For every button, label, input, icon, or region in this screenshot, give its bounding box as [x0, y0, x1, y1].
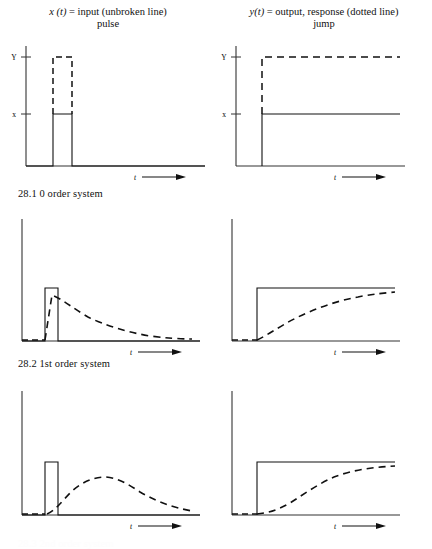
x-axis-arrow-head — [176, 174, 186, 180]
chart-first-order-step: t — [210, 213, 426, 361]
x-axis-label: t — [134, 173, 137, 182]
header-output-variable: y(t) — [250, 6, 265, 17]
chart-row-second-order: t t — [0, 383, 432, 531]
chart-row-first-order: t t — [0, 213, 432, 361]
header-input-description: = input (unbroken line) — [66, 6, 166, 17]
y-tick-label-upper: Y — [11, 53, 17, 62]
header-input: x (t) = input (unbroken line) pulse — [0, 6, 216, 36]
series-output-pulse — [53, 57, 72, 114]
x-axis-arrow-head — [376, 523, 386, 529]
x-axis-arrow-head — [172, 523, 182, 529]
y-tick-label-upper: Y — [221, 53, 227, 62]
x-axis-label: t — [334, 348, 337, 357]
x-axis-label: t — [130, 348, 133, 357]
series-input-pulse — [26, 114, 205, 166]
chart-row-zero-order: Y x t — [0, 38, 432, 186]
caption-zero-order: 28.1 0 order system — [18, 188, 103, 199]
chart-cell-second-order-step: t — [210, 383, 426, 531]
chart-cell-first-order-step: t — [210, 213, 426, 361]
series-output-first-order-decay — [45, 295, 192, 340]
x-axis-label: t — [334, 173, 337, 182]
chart-zero-order-jump: Y x t — [210, 38, 426, 186]
header-output-line1: y(t) = output, response (dotted line) — [216, 6, 432, 18]
x-axis-arrow-head — [172, 349, 182, 355]
chart-first-order-pulse: t — [0, 213, 216, 361]
caption-first-order: 28.2 1st order system — [18, 358, 110, 369]
series-output-step — [262, 57, 400, 114]
column-headers: x (t) = input (unbroken line) pulse y(t)… — [0, 6, 432, 36]
chart-second-order-step: t — [210, 383, 426, 531]
x-axis-label: t — [130, 522, 133, 531]
y-tick-label-lower: x — [222, 110, 226, 119]
figure-system-responses: x (t) = input (unbroken line) pulse y(t)… — [0, 0, 432, 549]
chart-cell-second-order-pulse: t — [0, 383, 216, 531]
caption-second-order: 28.3 2nd order system — [18, 538, 113, 549]
x-axis-arrow-head — [376, 174, 386, 180]
header-input-variable: x (t) — [49, 6, 66, 17]
x-axis-label: t — [334, 522, 337, 531]
header-output: y(t) = output, response (dotted line) ju… — [216, 6, 432, 36]
series-input-step — [262, 114, 400, 166]
series-output-first-order-rise — [257, 292, 395, 340]
header-output-line2: jump — [216, 18, 432, 30]
header-output-description: = output, response (dotted line) — [264, 6, 398, 17]
series-input-step — [257, 462, 395, 515]
chart-cell-zero-order-jump: Y x t — [210, 38, 426, 186]
chart-cell-first-order-pulse: t — [0, 213, 216, 361]
series-output-second-order-peak — [47, 477, 192, 514]
header-input-line1: x (t) = input (unbroken line) — [0, 6, 216, 18]
header-input-line2: pulse — [0, 18, 216, 30]
chart-second-order-pulse: t — [0, 383, 216, 531]
series-input-step — [257, 288, 395, 341]
x-axis-arrow-head — [376, 349, 386, 355]
y-tick-label-lower: x — [12, 110, 16, 119]
chart-zero-order-pulse: Y x t — [0, 38, 216, 186]
chart-cell-zero-order-pulse: Y x t — [0, 38, 216, 186]
series-output-second-order-sigmoid — [257, 466, 395, 514]
